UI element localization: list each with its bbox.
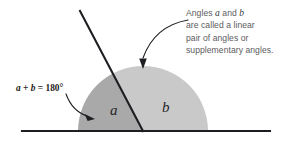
equation-plus: + <box>21 83 31 93</box>
callout-line-3: pair of angles or <box>186 32 282 44</box>
callout-line-4: supplementary angles. <box>186 44 282 56</box>
linear-pair-angle-diagram: Angles a and b are called a linear pair … <box>0 0 282 142</box>
equation-value: 180° <box>45 83 63 93</box>
equation-equals: = <box>35 83 45 93</box>
callout-line-1-prefix: Angles <box>186 8 215 18</box>
callout-variable-b: b <box>239 7 244 18</box>
angle-label-a: a <box>110 102 118 119</box>
angle-label-b: b <box>162 99 170 116</box>
callout-line-1: Angles a and b <box>186 7 282 19</box>
callout-line-2: are called a linear <box>186 19 282 31</box>
equation-label: a + b = 180° <box>16 83 63 93</box>
callout-line-1-mid: and <box>220 8 239 18</box>
callout-text-block: Angles a and b are called a linear pair … <box>186 7 282 56</box>
callout-arrow-curve <box>143 20 188 58</box>
